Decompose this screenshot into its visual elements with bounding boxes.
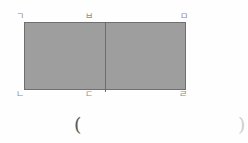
rectangle-divider-line [105, 22, 106, 92]
vertex-label-bottom-right: ㄹ [179, 89, 187, 99]
figure-canvas: ㄱ ㅂ ㅁ ㄴ ㄷ ㄹ ( ) [0, 0, 248, 143]
caption-open-paren: ( [74, 114, 81, 134]
vertex-label-top-middle: ㅂ [85, 11, 93, 21]
vertex-label-bottom-middle: ㄷ [85, 89, 93, 99]
caption-close-paren: ) [238, 114, 245, 134]
vertex-label-top-left: ㄱ [16, 11, 24, 21]
vertex-label-top-right: ㅁ [180, 11, 188, 21]
vertex-label-bottom-left: ㄴ [16, 89, 24, 99]
